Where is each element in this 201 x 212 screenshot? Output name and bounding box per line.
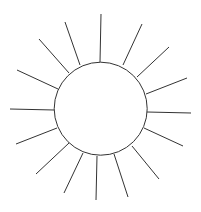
sun-ray — [132, 146, 159, 179]
sun-ray — [146, 78, 187, 94]
sun-ray — [137, 47, 169, 77]
sun-ray — [17, 70, 58, 89]
sun-rays — [10, 14, 191, 200]
sun-ray — [65, 22, 80, 65]
sun-ray — [147, 112, 191, 113]
sun-ray — [96, 156, 97, 200]
sun-ray — [36, 143, 69, 174]
sun-ray — [64, 153, 83, 193]
sun-ray — [100, 14, 101, 62]
sun-ray — [10, 109, 54, 110]
sun-ray — [114, 154, 128, 197]
sun-ray — [39, 39, 69, 73]
sun-circle — [54, 62, 147, 155]
sun-drawing — [0, 0, 201, 212]
sun-ray — [123, 24, 142, 65]
sun-ray — [16, 128, 57, 144]
sun-ray — [144, 128, 183, 146]
